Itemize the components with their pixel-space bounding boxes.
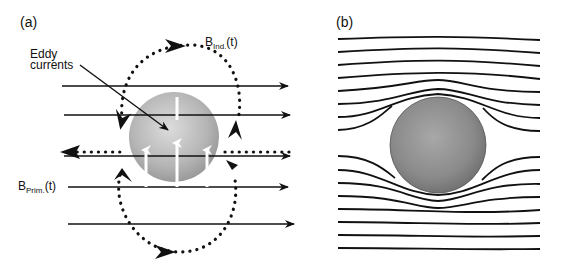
b-prim-main: B (18, 179, 26, 193)
b-ind-sub: Ind. (213, 42, 226, 51)
b-primary-label: BPrim.(t) (18, 180, 56, 197)
b-induced-label: BInd.(t) (205, 36, 238, 53)
panel-a-figure (0, 0, 300, 269)
panel-a-eddy-current-diagram: (a) Eddy currents BInd.(t) BPrim.(t) (0, 0, 300, 269)
b-ind-main: B (205, 35, 213, 49)
panel-b-label: (b) (336, 14, 353, 30)
panel-b-field-exclusion-diagram: (b) (300, 0, 562, 269)
panel-a-label: (a) (20, 14, 37, 30)
panel-b-figure (300, 0, 562, 269)
sphere-b (390, 97, 486, 193)
b-prim-suffix: (t) (45, 179, 56, 193)
eddy-label-line2: currents (30, 59, 73, 71)
b-ind-suffix: (t) (226, 35, 237, 49)
b-prim-sub: Prim. (26, 186, 45, 195)
